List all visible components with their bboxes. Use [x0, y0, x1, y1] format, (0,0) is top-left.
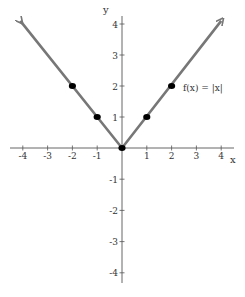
x-axis-label: x	[230, 154, 236, 165]
y-tick-label: -1	[109, 175, 118, 185]
y-tick-label: 1	[112, 113, 118, 123]
y-tick-label: -2	[109, 206, 118, 216]
data-point	[143, 114, 150, 120]
x-tick-label: 3	[194, 151, 200, 161]
x-tick-label: 1	[144, 151, 150, 161]
x-tick-label: 4	[218, 151, 224, 161]
y-axis-label: y	[102, 4, 109, 15]
x-tick-label: 2	[169, 151, 175, 161]
x-tick-label: -4	[18, 151, 27, 161]
data-point	[118, 145, 125, 151]
y-tick-label: -4	[109, 268, 118, 278]
function-label: f(x) = |x|	[183, 83, 223, 94]
x-tick-label: -3	[43, 151, 52, 161]
y-tick-label: 2	[112, 82, 118, 92]
x-tick-label: -1	[93, 151, 102, 161]
y-tick-label: 4	[112, 20, 118, 30]
y-tick-label: -3	[109, 237, 118, 247]
y-tick-label: 3	[112, 51, 118, 61]
function-graph: -4-3-2-11234 x -4-3-2-11234 y f(x) = |x|	[0, 0, 245, 297]
data-point	[168, 83, 175, 89]
y-axis: -4-3-2-11234 y	[102, 4, 125, 283]
data-point	[69, 83, 76, 89]
data-point	[94, 114, 101, 120]
x-tick-label: -2	[68, 151, 77, 161]
